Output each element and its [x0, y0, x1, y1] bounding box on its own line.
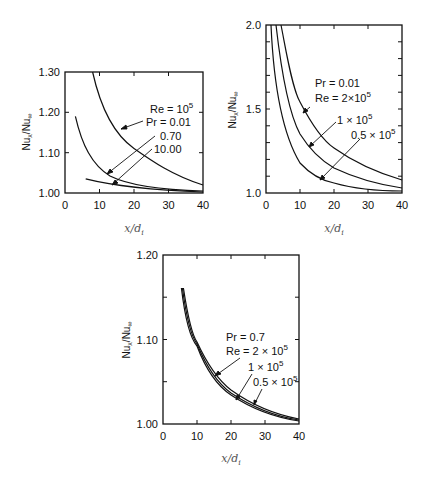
annotation-re-1e5: 1 × 105 [248, 359, 284, 373]
figure: 1.00 1.10 1.20 1.30 0 10 20 30 40 x/di N… [0, 0, 431, 478]
y-axis-label: Nux/Nu∞ [121, 322, 133, 359]
y-axis-label: Nux/Nu∞ [21, 114, 33, 151]
y-tick-label: 2.0 [246, 19, 261, 31]
x-tick-label: 30 [259, 430, 271, 442]
annotation-arrows [107, 121, 155, 185]
annotation-re: Re = 105 [150, 101, 194, 115]
annotation-pr-0.70: 0.70 [160, 130, 181, 142]
annotation-pr: Pr = 0.7 [226, 331, 265, 343]
x-tick-label: 0 [160, 430, 166, 442]
curve-pr-0.01 [93, 72, 203, 185]
y-tick-label: 1.00 [39, 187, 60, 199]
y-tick-label: 1.10 [137, 334, 158, 346]
y-tick-label: 1.00 [137, 418, 158, 430]
x-tick-label: 20 [328, 199, 340, 211]
annotation-pr: Pr = 0.01 [315, 77, 360, 89]
x-tick-label: 30 [362, 199, 374, 211]
annotation-re-0.5e5: 0.5 × 105 [351, 127, 396, 141]
y-tick-label: 1.30 [39, 66, 60, 78]
x-tick-label: 30 [162, 199, 174, 211]
x-tick-label: 20 [128, 199, 140, 211]
x-tick-label: 10 [294, 199, 306, 211]
x-axis-label: x/di [221, 452, 241, 467]
y-tick-label: 1.5 [246, 103, 261, 115]
curve-re-1e5 [276, 25, 402, 188]
x-axis-label: x/di [124, 222, 144, 237]
x-tick-label: 10 [93, 199, 105, 211]
annotation-re-0.5e5: 0.5 × 105 [253, 374, 298, 388]
x-tick-label: 40 [197, 199, 209, 211]
y-tick-label: 1.10 [39, 147, 60, 159]
x-tick-label: 40 [396, 199, 408, 211]
x-tick-label: 0 [62, 199, 68, 211]
annotation-pr-0.01: Pr = 0.01 [146, 116, 191, 128]
annotation-re-2e5: Re = 2 × 105 [226, 343, 289, 357]
annotation-re-1e5: 1 × 105 [337, 112, 373, 126]
y-tick-label: 1.20 [137, 249, 158, 261]
chart-pr-0.7-re-effect: 1.00 1.10 1.20 0 10 20 30 40 x/di Nux/Nu… [121, 249, 305, 467]
y-tick-label: 1.0 [246, 187, 261, 199]
x-tick-label: 40 [293, 430, 305, 442]
annotation-re-2e5: Re = 2×105 [315, 90, 371, 104]
y-tick-label: 1.20 [39, 106, 60, 118]
chart-pr-0.01-re-effect: 1.0 1.5 2.0 0 10 20 30 40 x/di Nux/Nu∞ P… [227, 19, 408, 237]
x-axis-label: x/di [324, 222, 344, 237]
plot-frame [65, 72, 203, 193]
annotation-pr-10: 10.00 [154, 143, 182, 155]
x-tick-label: 10 [191, 430, 203, 442]
y-axis-label: Nux/Nu∞ [227, 92, 239, 129]
x-tick-label: 0 [263, 199, 269, 211]
ticks [65, 72, 203, 193]
chart-pr-effect: 1.00 1.10 1.20 1.30 0 10 20 30 40 x/di N… [21, 66, 209, 237]
x-tick-label: 20 [225, 430, 237, 442]
